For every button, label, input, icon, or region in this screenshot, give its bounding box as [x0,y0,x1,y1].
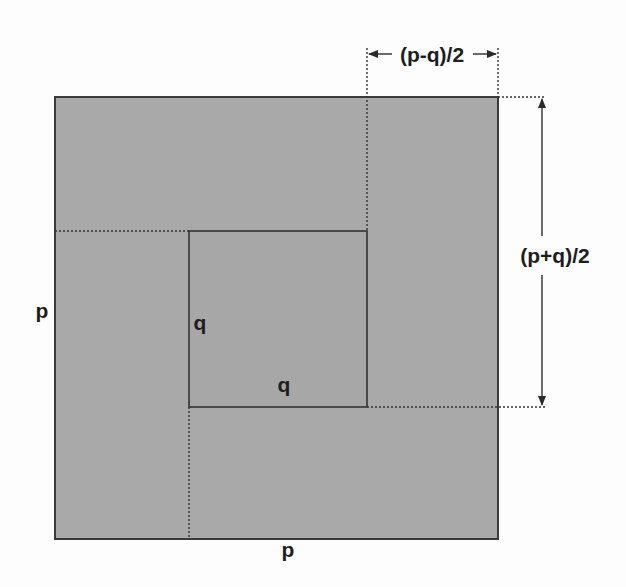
outer-bottom-label: p [282,538,295,561]
outer-left-label: p [36,299,49,322]
top-dimension-label: (p-q)/2 [400,43,464,66]
nested-squares-diagram: (p-q)/2 (p+q)/2 p p q q [0,0,626,587]
inner-bottom-label: q [278,373,291,396]
inner-left-label: q [194,311,207,334]
right-dimension-label: (p+q)/2 [520,244,589,267]
